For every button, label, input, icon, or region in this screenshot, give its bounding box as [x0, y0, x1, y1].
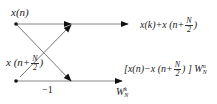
bottom-input-label: x (n+N2)	[6, 55, 43, 72]
top-input-label: x(n)	[11, 7, 29, 18]
top-output-label: x(k)+x (n+N2)	[140, 17, 197, 34]
bottom-input-node	[14, 79, 18, 83]
bottom-output-label: [x(n)−x (n+N2) ] WnN	[124, 61, 207, 78]
butterfly-graph	[0, 0, 217, 104]
minus-one-label: −1	[42, 85, 53, 95]
twiddle-factor-label: WkN	[116, 87, 128, 98]
top-input-node	[14, 22, 18, 26]
